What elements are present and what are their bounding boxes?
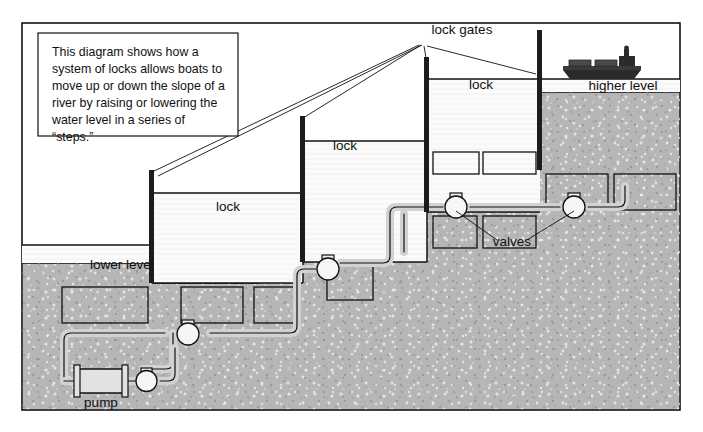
pump-flange-right: [122, 365, 128, 397]
label-lock-3: lock: [469, 77, 493, 92]
diagram-canvas: lock gates higher level lower level lock…: [0, 0, 703, 432]
caption-line-4: river by raising or lowering the: [52, 96, 217, 110]
lock-chamber-2-water: [303, 141, 427, 262]
label-higher-level: higher level: [588, 78, 657, 93]
lock-chamber-3-water: [427, 79, 540, 212]
boat-light: [624, 46, 629, 51]
lock-system-diagram: lock gates higher level lower level lock…: [0, 0, 703, 432]
valve-2-body: [317, 258, 339, 280]
caption-box: This diagram shows how a system of locks…: [38, 33, 238, 144]
pump-body: [78, 369, 124, 393]
boat-cargo-1: [569, 60, 591, 66]
label-lock-2: lock: [333, 138, 357, 153]
lock-gate-2[interactable]: [300, 116, 305, 262]
pump-assembly: [74, 365, 128, 397]
lock-gate-3[interactable]: [424, 57, 429, 212]
valve-pump-body: [136, 371, 157, 392]
valve-1-body: [177, 323, 199, 345]
caption-line-1: This diagram shows how a: [52, 45, 199, 59]
valve-3-body: [445, 196, 467, 218]
label-valves: valves: [493, 234, 532, 249]
caption-line-3: move up or down the slope of a: [52, 79, 225, 93]
boat-deck: [563, 66, 641, 70]
label-lower-level: lower level: [90, 257, 154, 272]
label-pump: pump: [84, 395, 118, 410]
lock-gate-4[interactable]: [537, 30, 542, 170]
label-lock-gates: lock gates: [432, 22, 493, 37]
caption-line-6: “steps.”: [52, 130, 93, 144]
valve-4-body: [563, 196, 585, 218]
caption-line-2: system of locks allows boats to: [52, 62, 222, 76]
pump-flange-left: [74, 365, 80, 397]
boat-cargo-2: [595, 60, 617, 66]
caption-line-5: water level in a series of: [51, 113, 185, 127]
label-lock-1: lock: [216, 199, 240, 214]
boat-cabin: [619, 56, 635, 66]
